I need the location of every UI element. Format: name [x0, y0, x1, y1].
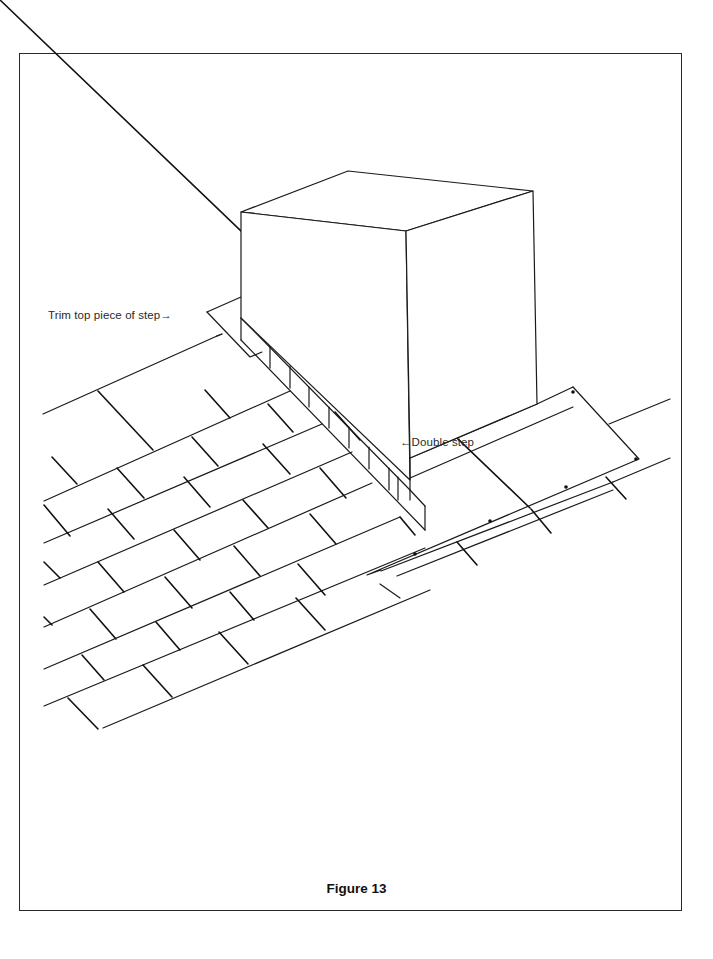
chimney-roof-drawing [0, 0, 713, 959]
double-step-label: ←Double step [400, 436, 474, 448]
chimney [241, 171, 537, 500]
figure-caption: Figure 13 [0, 881, 713, 896]
trim-top-step-label: Trim top piece of step→ [48, 309, 172, 321]
